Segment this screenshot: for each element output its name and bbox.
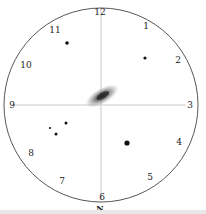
star-icon xyxy=(55,133,58,136)
clock-label-9: 9 xyxy=(9,101,15,110)
clock-label-3: 3 xyxy=(187,101,193,110)
eyepiece-sketch xyxy=(0,0,206,214)
star-icon xyxy=(124,140,129,145)
clock-label-8: 8 xyxy=(28,149,34,158)
bottom-border xyxy=(0,210,206,214)
clock-label-4: 4 xyxy=(176,138,182,147)
star-icon xyxy=(65,41,69,45)
clock-label-7: 7 xyxy=(59,177,65,186)
clock-label-12: 12 xyxy=(94,8,105,17)
clock-label-10: 10 xyxy=(20,61,31,70)
galaxy xyxy=(82,80,123,113)
clock-label-6: 6 xyxy=(99,193,105,202)
clock-label-2: 2 xyxy=(175,56,181,65)
star-icon xyxy=(49,127,51,129)
star-icon xyxy=(65,122,68,125)
clock-label-1: 1 xyxy=(143,22,149,31)
clock-label-5: 5 xyxy=(147,173,153,182)
clock-label-11: 11 xyxy=(49,26,60,35)
star-icon xyxy=(143,56,146,59)
